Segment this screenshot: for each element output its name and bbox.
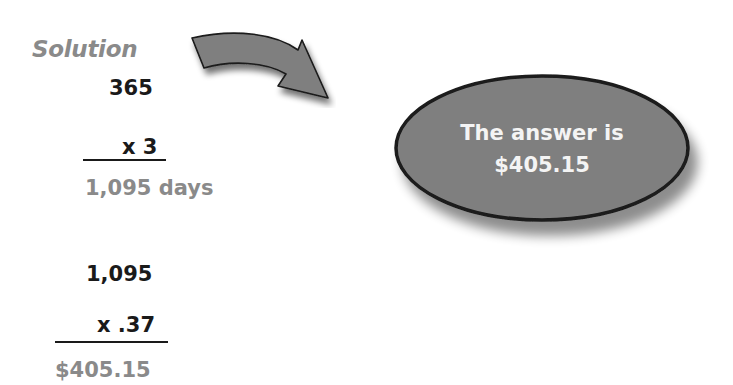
answer-line-1: The answer is <box>460 117 623 149</box>
step1-underline <box>83 159 166 161</box>
step1-multiplier: x 3 <box>122 135 157 159</box>
step2-result: $405.15 <box>55 358 151 382</box>
step2-multiplicand: 1,095 <box>86 262 152 286</box>
answer-line-2: $405.15 <box>494 149 590 181</box>
solution-heading: Solution <box>32 36 137 62</box>
step1-result: 1,095 days <box>85 176 213 200</box>
step2-multiplier: x .37 <box>97 313 155 337</box>
step2-underline <box>55 341 168 343</box>
answer-bubble-text: The answer is $405.15 <box>392 72 692 225</box>
step1-multiplicand: 365 <box>109 76 153 100</box>
curved-arrow-icon <box>186 28 336 108</box>
